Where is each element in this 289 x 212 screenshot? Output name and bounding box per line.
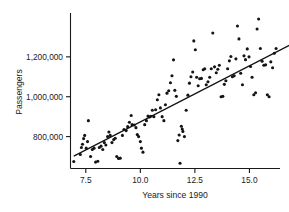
- data-point: [175, 95, 178, 98]
- data-point: [151, 109, 154, 112]
- data-point: [244, 58, 247, 61]
- data-point: [269, 60, 272, 63]
- data-point: [162, 119, 165, 122]
- data-point: [154, 108, 157, 111]
- data-point: [257, 17, 260, 20]
- data-point: [83, 134, 86, 137]
- data-point: [237, 37, 240, 40]
- data-point: [194, 48, 197, 51]
- data-point: [223, 83, 226, 86]
- data-point: [110, 141, 113, 144]
- data-point: [139, 140, 142, 143]
- data-point: [256, 27, 259, 30]
- data-point: [181, 130, 184, 133]
- data-point: [93, 147, 96, 150]
- data-point: [205, 83, 208, 86]
- data-point: [185, 109, 188, 112]
- data-point: [161, 115, 164, 118]
- data-point: [216, 68, 219, 71]
- data-point: [96, 160, 99, 163]
- data-point: [89, 155, 92, 158]
- data-point: [101, 148, 104, 151]
- data-point: [173, 89, 176, 92]
- data-point: [251, 76, 254, 79]
- data-point: [164, 103, 167, 106]
- y-tick-label: 1,200,000: [26, 52, 63, 62]
- data-point: [180, 125, 183, 128]
- x-tick-label: 7.5: [80, 175, 92, 185]
- data-point: [157, 93, 160, 96]
- data-point: [254, 91, 257, 94]
- data-point: [104, 143, 107, 146]
- data-point: [224, 79, 227, 82]
- data-point: [226, 67, 229, 70]
- data-point: [264, 63, 267, 66]
- data-point: [178, 133, 181, 136]
- x-tick-label: 15.0: [241, 175, 258, 185]
- data-point: [271, 66, 274, 69]
- data-point: [259, 47, 262, 50]
- x-tick-label: 10.0: [132, 175, 149, 185]
- data-point: [236, 24, 239, 27]
- scatter-chart: 800,0001,000,0001,200,000 Passengers 7.5…: [0, 0, 289, 212]
- data-point: [228, 59, 231, 62]
- data-point: [191, 70, 194, 73]
- data-point: [141, 151, 144, 154]
- data-point: [128, 121, 131, 124]
- data-point: [213, 65, 216, 68]
- data-point: [121, 134, 124, 137]
- data-point: [246, 47, 249, 50]
- x-axis-title: Years since 1990: [142, 190, 208, 200]
- data-point: [179, 162, 182, 165]
- data-point: [206, 80, 209, 83]
- data-point: [239, 72, 242, 75]
- data-point: [192, 39, 195, 42]
- data-point: [114, 137, 117, 140]
- data-point: [218, 64, 221, 67]
- data-point: [229, 55, 232, 58]
- data-point: [247, 55, 250, 58]
- data-point: [81, 143, 84, 146]
- data-point: [186, 94, 189, 97]
- data-point: [242, 54, 245, 57]
- data-point: [167, 89, 170, 92]
- data-point: [234, 57, 237, 60]
- data-point: [195, 76, 198, 79]
- data-point: [82, 137, 85, 140]
- data-point: [208, 76, 211, 79]
- data-point: [211, 31, 214, 34]
- data-point: [156, 98, 159, 101]
- data-point: [176, 139, 179, 142]
- y-tick-label: 1,000,000: [26, 92, 63, 102]
- data-point: [80, 146, 83, 149]
- data-point: [107, 130, 110, 133]
- data-point: [72, 160, 75, 163]
- data-point: [188, 82, 191, 85]
- data-point: [134, 126, 137, 129]
- data-point: [215, 71, 218, 74]
- data-point: [172, 58, 175, 61]
- data-point: [170, 74, 173, 77]
- data-point: [200, 77, 203, 80]
- data-point: [183, 135, 186, 138]
- data-point: [241, 83, 244, 86]
- data-point: [203, 67, 206, 70]
- data-point: [197, 84, 200, 87]
- data-point: [169, 81, 172, 84]
- data-point: [189, 75, 192, 78]
- data-point: [119, 157, 122, 160]
- data-point: [221, 95, 224, 98]
- data-point: [143, 123, 146, 126]
- data-point: [210, 67, 213, 70]
- y-tick-label: 800,000: [33, 132, 63, 142]
- data-point: [275, 47, 278, 50]
- data-point: [86, 140, 89, 143]
- data-point: [159, 106, 162, 109]
- y-axis-title: Passengers: [14, 69, 24, 114]
- data-point: [130, 114, 133, 117]
- data-point: [137, 135, 140, 138]
- data-point: [100, 145, 103, 148]
- data-point: [140, 147, 143, 150]
- x-tick-label: 12.5: [187, 175, 204, 185]
- data-point: [87, 119, 90, 122]
